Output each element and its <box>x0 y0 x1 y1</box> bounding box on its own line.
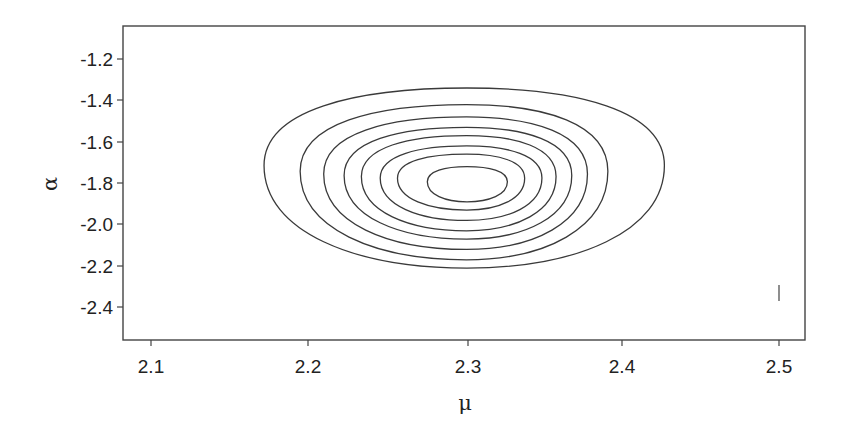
plot-frame <box>123 26 805 340</box>
x-tick-label: 2.5 <box>766 356 792 377</box>
contour-line <box>427 167 507 202</box>
x-tick-label: 2.4 <box>609 356 636 377</box>
contour-lines <box>264 88 664 268</box>
x-tick-label: 2.3 <box>455 356 481 377</box>
x-axis: 2.1 2.2 2.3 2.4 2.5 μ <box>138 340 792 415</box>
y-tick-label: -1.2 <box>80 49 113 70</box>
contour-line <box>344 127 572 239</box>
y-axis-title: α <box>38 177 62 191</box>
y-tick-label: -2.4 <box>80 297 113 318</box>
y-tick-label: -2.2 <box>80 256 113 277</box>
contour-line <box>324 117 588 249</box>
contour-chart: -1.2 -1.4 -1.6 -1.8 -2.0 -2.2 -2.4 α 2.1… <box>0 0 846 430</box>
contour-line <box>380 146 542 221</box>
y-tick-label: -1.4 <box>80 90 113 111</box>
y-tick-label: -1.8 <box>80 173 113 194</box>
x-axis-title: μ <box>458 391 472 415</box>
contour-line <box>361 136 556 231</box>
x-tick-label: 2.2 <box>295 356 321 377</box>
y-tick-label: -1.6 <box>80 132 113 153</box>
x-tick-label: 2.1 <box>138 356 164 377</box>
y-tick-label: -2.0 <box>80 214 113 235</box>
y-axis: -1.2 -1.4 -1.6 -1.8 -2.0 -2.2 -2.4 α <box>38 49 123 318</box>
